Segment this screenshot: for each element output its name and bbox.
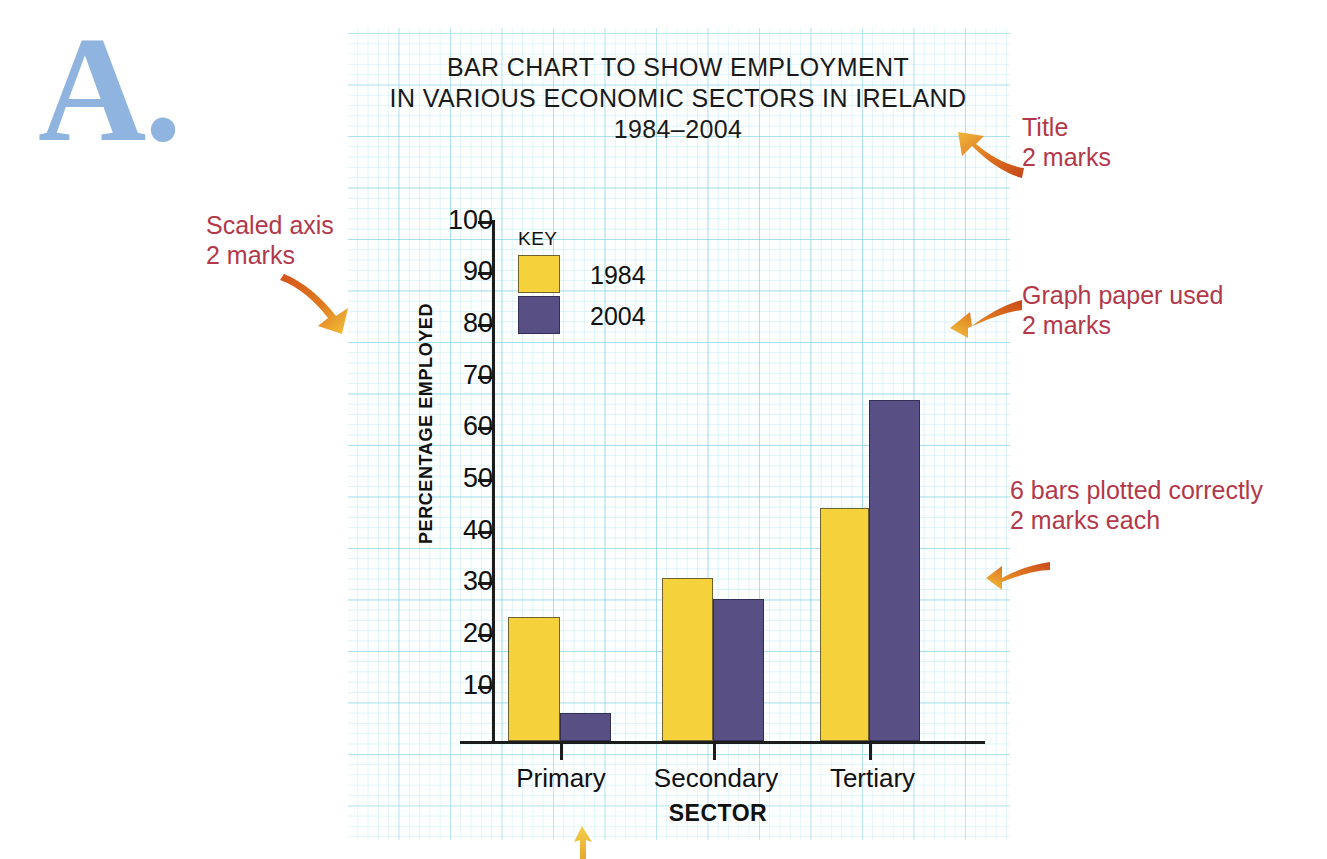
annotation-scaled-axis-line-2: 2 marks	[206, 240, 334, 270]
y-tick-label: 80	[431, 310, 493, 337]
legend-swatch-1984	[518, 255, 560, 293]
x-axis-line	[460, 741, 985, 744]
y-tick-label: 30	[431, 568, 493, 595]
chart-plot-area: 100 90 80 70 60 50 40 30 20 10 PERCENTAG…	[348, 28, 1010, 840]
legend-label-2004: 2004	[590, 302, 646, 331]
y-tick-label: 100	[431, 207, 493, 234]
annotation-arrow-graph-paper	[948, 294, 1024, 338]
y-tick-label: 60	[431, 413, 493, 440]
y-tick-label: 40	[431, 517, 493, 544]
annotation-scaled-axis: Scaled axis 2 marks	[206, 210, 334, 270]
x-category-label-tertiary: Tertiary	[800, 763, 945, 794]
annotation-title-marks-line-2: 2 marks	[1022, 142, 1111, 172]
annotation-scaled-axis-line-1: Scaled axis	[206, 210, 334, 240]
bar-tertiary-1984	[820, 508, 869, 741]
annotation-bars-plotted: 6 bars plotted correctly 2 marks each	[1010, 475, 1263, 535]
legend-item-1984: 1984	[518, 255, 698, 293]
bar-secondary-2004	[713, 599, 764, 741]
annotation-bars-plotted-line-2: 2 marks each	[1010, 505, 1263, 535]
y-tick-label: 20	[431, 620, 493, 647]
annotation-arrow-scaled-axis	[278, 268, 358, 336]
legend-label-1984: 1984	[590, 261, 646, 290]
annotation-bars-plotted-line-1: 6 bars plotted correctly	[1010, 475, 1263, 505]
legend-item-2004: 2004	[518, 296, 698, 334]
y-axis-title: PERCENTAGE EMPLOYED	[416, 299, 437, 549]
annotation-graph-paper-used: Graph paper used 2 marks	[1022, 280, 1224, 340]
annotation-graph-paper-line-1: Graph paper used	[1022, 280, 1224, 310]
x-tick-tertiary	[869, 744, 872, 760]
bar-primary-1984	[508, 617, 560, 741]
annotation-arrow-title	[954, 132, 1026, 182]
bar-secondary-1984	[662, 578, 713, 741]
y-tick-label: 50	[431, 465, 493, 492]
y-tick-label: 70	[431, 362, 493, 389]
annotation-arrow-bottom	[570, 826, 598, 859]
bar-primary-2004	[560, 713, 611, 741]
legend-title: KEY	[518, 228, 558, 250]
annotation-title-marks-line-1: Title	[1022, 112, 1111, 142]
annotation-title-marks: Title 2 marks	[1022, 112, 1111, 172]
x-category-label-secondary: Secondary	[631, 763, 801, 794]
bar-tertiary-2004	[869, 400, 920, 741]
x-tick-primary	[560, 744, 563, 760]
chart-legend: KEY 1984 2004	[508, 220, 698, 330]
y-tick-label: 10	[431, 672, 493, 699]
question-marker-letter: A.	[38, 14, 180, 164]
annotation-arrow-bars	[986, 558, 1052, 594]
x-category-label-primary: Primary	[490, 763, 632, 794]
y-tick-label: 90	[431, 258, 493, 285]
legend-swatch-2004	[518, 296, 560, 334]
x-tick-secondary	[713, 744, 716, 760]
annotation-graph-paper-line-2: 2 marks	[1022, 310, 1224, 340]
x-axis-title: SECTOR	[548, 800, 888, 827]
